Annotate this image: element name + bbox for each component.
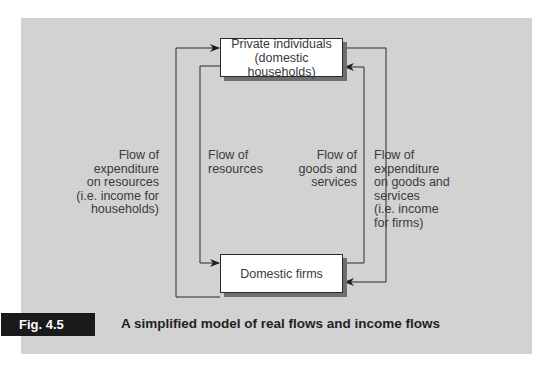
label-expenditure-on-goods: Flow of expenditure on goods and service…: [374, 149, 450, 230]
households-label-line1: Private individuals: [221, 37, 342, 51]
figure-number-tag: Fig. 4.5: [1, 313, 95, 336]
figure-caption: A simplified model of real flows and inc…: [121, 316, 440, 331]
firms-label: Domestic firms: [240, 267, 323, 281]
firms-node: Domestic firms: [220, 254, 343, 293]
label-flow-of-resources: Flow of resources: [208, 149, 263, 176]
label-expenditure-on-resources: Flow of expenditure on resources (i.e. i…: [76, 149, 159, 217]
households-label-line2: (domestic households): [221, 51, 342, 79]
label-flow-of-goods-and-services: Flow of goods and services: [299, 149, 357, 190]
households-node: Private individuals (domestic households…: [220, 38, 343, 77]
